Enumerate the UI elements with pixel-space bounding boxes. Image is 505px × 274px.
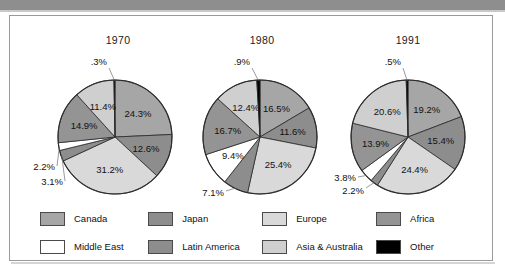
- pie-slice-label: 24.3%: [124, 108, 151, 119]
- pie-slice-label: .5%: [385, 56, 402, 67]
- legend-swatch-africa: [376, 212, 401, 226]
- legend-label-latin-america: Latin America: [182, 240, 240, 252]
- pie-slice-label: 3.1%: [41, 176, 63, 187]
- panel-shadow: [11, 262, 495, 264]
- label-leader-line: [403, 68, 407, 81]
- pie-slice-label: 7.1%: [202, 187, 224, 198]
- legend-swatch-japan: [148, 212, 173, 226]
- legend-item-europe: Europe: [262, 212, 376, 226]
- pie-slice-label: 13.9%: [362, 138, 389, 149]
- legend-swatch-other: [376, 240, 401, 254]
- legend-swatch-latin-america: [148, 240, 173, 254]
- pie-slice-label: 19.2%: [413, 104, 440, 115]
- legend-item-africa: Africa: [376, 212, 490, 226]
- pie-slice-label: 9.4%: [222, 150, 244, 161]
- pie-slice-label: 2.2%: [342, 185, 364, 196]
- pie-slice-label: .3%: [91, 56, 108, 67]
- legend-item-other: Other: [376, 240, 490, 254]
- pie-slice-label: 11.4%: [90, 101, 117, 112]
- label-leader-line: [226, 188, 236, 191]
- legend-label-canada: Canada: [74, 212, 107, 224]
- pie-slice-label: 12.6%: [133, 143, 160, 154]
- legend-swatch-asia-australia: [262, 240, 287, 254]
- pie-chart-1980: 16.5%11.6%25.4%7.1%9.4%16.7%12.4%.9%: [182, 71, 342, 201]
- label-leader-line: [252, 68, 258, 81]
- pie-chart-1991: 19.2%15.4%24.4%2.2%3.8%13.9%20.6%.5%: [330, 71, 490, 201]
- label-leader-line: [57, 147, 59, 167]
- top-bar-shadow: [0, 10, 505, 12]
- legend-row-1: Canada Japan Europe Africa: [40, 212, 490, 240]
- legend-swatch-middle-east: [40, 240, 65, 254]
- pie-chart-1970: 24.3%12.6%31.2%3.1%2.2%14.9%11.4%.3%: [37, 71, 197, 201]
- legend-swatch-canada: [40, 212, 65, 226]
- pie-slice-label: 16.5%: [263, 103, 290, 114]
- legend-label-japan: Japan: [182, 212, 208, 224]
- pie-slice-label: .9%: [234, 56, 251, 67]
- legend-item-canada: Canada: [40, 212, 148, 226]
- label-leader-line: [358, 175, 367, 177]
- legend-item-latin-america: Latin America: [148, 240, 262, 254]
- pie-slice-label: 3.8%: [334, 172, 356, 183]
- pie-title-1991: 1991: [368, 34, 448, 46]
- legend-label-europe: Europe: [296, 212, 327, 224]
- pie-slice-label: 16.7%: [214, 125, 241, 136]
- label-leader-line: [366, 182, 375, 188]
- pie-slice-label: 2.2%: [33, 161, 55, 172]
- pie-slice-label: 25.4%: [265, 159, 292, 170]
- legend-item-asia-australia: Asia & Australia: [262, 240, 376, 254]
- pie-slice-label: 20.6%: [374, 106, 401, 117]
- pie-slice-label: 31.2%: [96, 164, 123, 175]
- pie-title-1970: 1970: [78, 34, 158, 46]
- legend-swatch-europe: [262, 212, 287, 226]
- legend-label-middle-east: Middle East: [74, 240, 124, 252]
- top-decorative-bar: [0, 0, 505, 10]
- legend-item-middle-east: Middle East: [40, 240, 148, 254]
- label-leader-line: [109, 68, 115, 81]
- legend-label-africa: Africa: [410, 212, 434, 224]
- pie-slice-label: 15.4%: [427, 135, 454, 146]
- pie-slice-label: 12.4%: [232, 102, 259, 113]
- chart-panel: 1970 1980 1991 24.3%12.6%31.2%3.1%2.2%14…: [9, 15, 493, 261]
- pie-slice-label: 14.9%: [71, 120, 98, 131]
- pie-slice-label: 11.6%: [279, 126, 306, 137]
- legend-label-asia-australia: Asia & Australia: [296, 240, 363, 252]
- pie-title-1980: 1980: [222, 34, 302, 46]
- legend-label-other: Other: [410, 240, 434, 252]
- pie-slice-label: 24.4%: [401, 164, 428, 175]
- legend-item-japan: Japan: [148, 212, 262, 226]
- chart-figure: 1970 1980 1991 24.3%12.6%31.2%3.1%2.2%14…: [0, 0, 505, 274]
